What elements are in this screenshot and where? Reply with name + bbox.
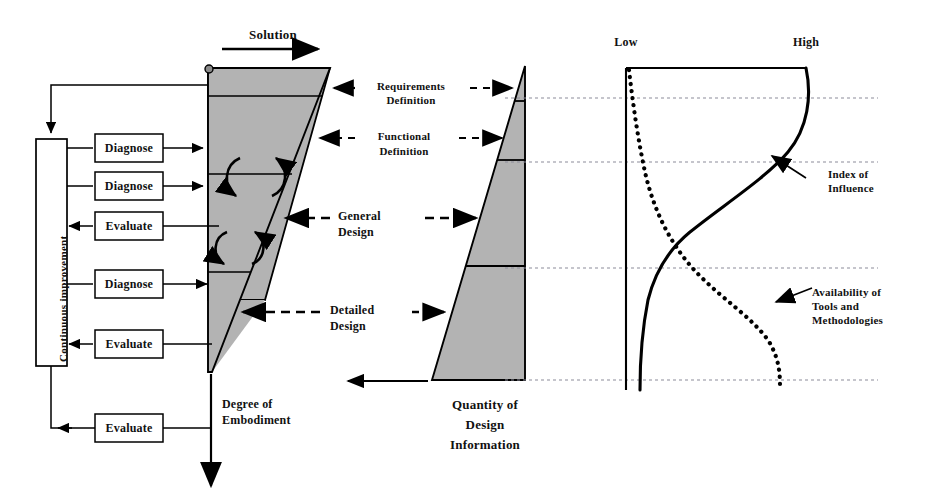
stage-label-general-line1: General xyxy=(338,210,418,223)
process-box-evaluate-2[interactable]: Evaluate xyxy=(95,330,163,358)
annotation-leader-availability xyxy=(776,288,812,302)
annotation-index-of-influence-line2: Influence xyxy=(828,182,924,194)
annotation-availability-line3: Methodologies xyxy=(812,314,926,326)
chart-gridlines xyxy=(505,98,878,380)
quantity-caption-line2: Design xyxy=(420,418,550,433)
stage-label-functional-line2: Definition xyxy=(352,145,456,157)
design-information-wedge xyxy=(432,66,525,380)
annotation-index-of-influence-line1: Index of xyxy=(828,168,924,180)
process-box-evaluate-1[interactable]: Evaluate xyxy=(95,212,163,240)
stage-label-detailed-line1: Detailed xyxy=(330,304,414,317)
solution-label: Solution xyxy=(228,28,318,43)
annotation-availability-line2: Tools and xyxy=(812,300,926,312)
stage-label-requirements-line1: Requirements xyxy=(355,80,467,92)
process-box-diagnose-2[interactable]: Diagnose xyxy=(95,172,163,200)
stage-label-general-line2: Design xyxy=(338,226,418,239)
axis-label-high: High xyxy=(780,36,832,49)
annotation-availability-line1: Availability of xyxy=(812,286,926,298)
stage-label-functional-line1: Functional xyxy=(352,130,456,142)
quantity-caption-line1: Quantity of xyxy=(420,398,550,413)
axis-label-low: Low xyxy=(600,36,652,49)
quantity-caption-line3: Information xyxy=(420,438,550,453)
process-box-diagnose-3[interactable]: Diagnose xyxy=(95,270,163,298)
series-availability-of-tools xyxy=(629,70,780,386)
degree-of-embodiment-label-line1: Degree of xyxy=(222,398,332,411)
diagram-canvas: Solution Continuous improvement Diagnose… xyxy=(0,0,926,502)
continuous-improvement-label: Continuous improvement xyxy=(57,236,69,363)
stage-label-detailed-line2: Design xyxy=(330,320,414,333)
degree-of-embodiment-label-line2: Embodiment xyxy=(222,414,342,427)
annotation-leader-influence xyxy=(772,156,806,178)
feedback-wire-bottom xyxy=(51,366,95,428)
feedback-wire-top xyxy=(51,85,208,133)
chart-axes xyxy=(626,68,806,390)
stage-label-requirements-line2: Definition xyxy=(355,94,467,106)
process-box-diagnose-1[interactable]: Diagnose xyxy=(95,134,163,162)
process-box-evaluate-3[interactable]: Evaluate xyxy=(95,414,163,442)
